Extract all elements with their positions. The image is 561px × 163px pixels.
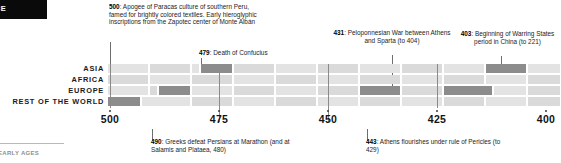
grid-cell[interactable] [276,97,316,106]
grid-cell[interactable] [494,86,526,95]
axis-separator-425 [437,64,438,108]
grid-cell-event-500[interactable] [108,97,140,106]
grid-cell[interactable] [318,86,358,95]
grid-cell[interactable] [192,97,232,106]
annotation-443: 443: Athens flourishes under rule of Per… [366,138,511,153]
grid-cell[interactable] [150,86,157,95]
axis-tick-dot [545,110,547,112]
grid-cell-event-479[interactable] [201,64,232,73]
timeline-axis: 500 475 450 425 400 [0,108,561,132]
annotation-431: 431: Peloponnesian War between Athens an… [333,29,451,44]
grid-cell[interactable] [234,86,274,95]
timeline-row-rest-of-the-world [108,97,560,106]
grid-cell[interactable] [528,75,560,84]
grid-cell[interactable] [528,64,560,73]
grid-cell[interactable] [402,75,442,84]
grid-cell[interactable] [234,75,274,84]
grid-cell[interactable] [108,75,148,84]
axis-label-500: 500 [101,113,119,125]
timeline-panel: CE 500: Apogee of Paracas culture of sou… [0,0,561,163]
grid-cell[interactable] [108,86,148,95]
row-label-rest-of-the-world: REST OF THE WORLD [12,97,104,106]
row-label-africa: AFRICA [72,75,104,84]
footer-divider [0,143,64,144]
grid-cell-event-403[interactable] [486,64,526,73]
axis-tick-dot [436,110,438,112]
grid-cell[interactable] [276,86,316,95]
grid-cell[interactable] [276,75,316,84]
era-tab: CE [0,0,47,19]
grid-cell[interactable] [150,64,190,73]
timeline-row-asia [108,64,560,73]
grid-cell[interactable] [192,75,232,84]
row-label-asia: ASIA [83,64,104,73]
grid-cell[interactable] [318,97,358,106]
grid-cell[interactable] [234,97,274,106]
row-label-column: ASIA AFRICA EUROPE REST OF THE WORLD [0,64,104,108]
grid-cell[interactable] [402,97,442,106]
grid-cell[interactable] [528,86,560,95]
grid-cell[interactable] [444,64,484,73]
axis-label-450: 450 [319,113,337,125]
axis-separator-500 [110,64,111,108]
grid-cell[interactable] [150,75,190,84]
grid-cell[interactable] [360,75,400,84]
timeline-row-europe [108,86,560,95]
axis-label-475: 475 [210,113,228,125]
grid-cell[interactable] [360,64,400,73]
grid-cell[interactable] [276,64,316,73]
axis-label-425: 425 [428,113,446,125]
annotation-490: 490: Greeks defeat Persians at Marathon … [151,138,301,153]
grid-cell[interactable] [402,86,442,95]
grid-cell[interactable] [444,97,484,106]
grid-cell[interactable] [528,97,560,106]
grid-cell[interactable] [486,75,526,84]
axis-tick-dot [109,110,111,112]
footer-label: EARLY AGES [0,150,39,156]
grid-cell[interactable] [108,64,148,73]
grid-cell[interactable] [142,97,190,106]
grid-cell[interactable] [234,64,274,73]
grid-cell[interactable] [192,86,232,95]
era-tab-label: CE [0,3,6,15]
grid-cell[interactable] [318,64,358,73]
row-label-europe: EUROPE [68,86,104,95]
annotation-403: 403: Beginning of Warring States period … [457,30,558,45]
timeline-row-africa [108,75,560,84]
timeline-grid [108,64,560,108]
annotation-500: 500: Apogee of Paracas culture of southe… [109,3,259,26]
grid-cell[interactable] [192,64,199,73]
axis-tick-dot [218,110,220,112]
grid-cell[interactable] [402,64,442,73]
axis-tick-dot [327,110,329,112]
grid-cell-event-490[interactable] [159,86,190,95]
grid-cell-event-443[interactable] [360,86,400,95]
grid-cell[interactable] [444,75,484,84]
grid-cell[interactable] [486,97,526,106]
grid-cell[interactable] [318,75,358,84]
annotation-479: 479: Death of Confucius [199,49,319,57]
grid-cell-event-431[interactable] [444,86,492,95]
axis-label-400: 400 [537,113,555,125]
grid-cell[interactable] [360,97,400,106]
